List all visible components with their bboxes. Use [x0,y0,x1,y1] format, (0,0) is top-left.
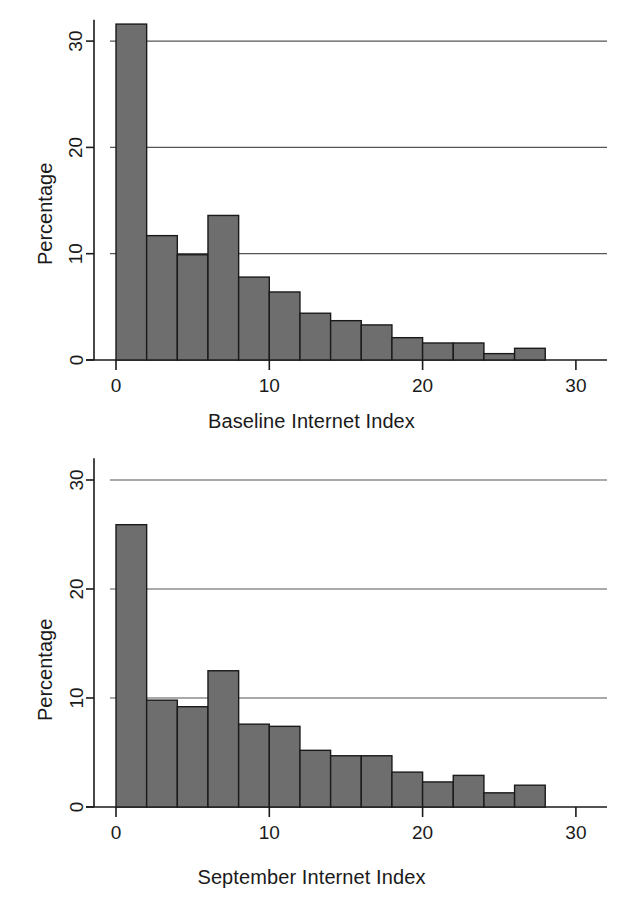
histogram-bar [515,785,546,807]
y-tick-label-20: 20 [66,137,87,158]
histogram-bar [269,292,300,360]
histogram-bar [423,343,454,360]
histogram-bar [423,782,454,807]
y-tick-label-10: 10 [66,687,87,708]
x-tick-label-0: 0 [111,375,122,396]
chart-panel-september: 01020300102030 Percentage September Inte… [0,456,623,912]
histogram-bar [331,321,362,360]
histogram-bar [453,343,484,360]
x-tick-label-20: 20 [412,822,433,843]
y-tick-label-10: 10 [66,243,87,264]
x-tick-label-0: 0 [111,822,122,843]
histogram-bar [484,354,515,360]
histogram-bar [515,348,546,360]
histogram-baseline: 01020300102030 [0,0,623,400]
histogram-bar [392,772,423,807]
histogram-bar [392,338,423,360]
histogram-bar [300,313,331,360]
histogram-bar [239,724,270,807]
y-axis-title-september: Percentage [34,619,57,721]
x-axis-title-september: September Internet Index [0,866,623,889]
histogram-bar [147,236,178,360]
histogram-bar [269,726,300,807]
histogram-bar [177,707,208,807]
x-tick-label-30: 30 [565,375,586,396]
x-axis-title-baseline: Baseline Internet Index [0,410,623,433]
histogram-bar [116,525,147,807]
plot-area-september: 01020300102030 Percentage September Inte… [0,456,623,912]
histogram-bar [208,671,239,807]
histogram-bar [147,700,178,807]
y-axis-title-baseline: Percentage [34,163,57,265]
y-tick-label-0: 0 [66,802,87,813]
chart-panel-baseline: 01020300102030 Percentage Baseline Inter… [0,0,623,456]
x-tick-label-30: 30 [565,822,586,843]
y-tick-label-0: 0 [66,355,87,366]
histogram-bar [208,215,239,360]
x-tick-label-10: 10 [259,375,280,396]
x-tick-label-20: 20 [412,375,433,396]
histogram-september: 01020300102030 [0,456,623,856]
y-tick-label-30: 30 [66,31,87,52]
histogram-bar [361,325,392,360]
histogram-bar [177,255,208,360]
histogram-bar [300,750,331,807]
histogram-bar [361,756,392,807]
y-tick-label-20: 20 [66,578,87,599]
y-tick-label-30: 30 [66,469,87,490]
plot-area-baseline: 01020300102030 Percentage Baseline Inter… [0,0,623,456]
histogram-bar [239,277,270,360]
figure-page: 01020300102030 Percentage Baseline Inter… [0,0,623,912]
histogram-bar [331,756,362,807]
histogram-bar [484,793,515,807]
histogram-bar [453,775,484,807]
histogram-bar [116,24,147,360]
x-tick-label-10: 10 [259,822,280,843]
